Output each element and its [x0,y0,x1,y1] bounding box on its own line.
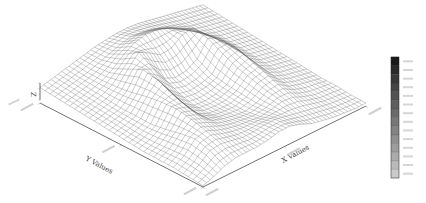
y-axis-title: Y Values [83,154,114,176]
colorbar-legend [391,57,413,178]
surface-plot: Z Y Values X Values [0,0,426,203]
z-axis-title: Z [29,92,37,97]
axes [39,83,41,100]
